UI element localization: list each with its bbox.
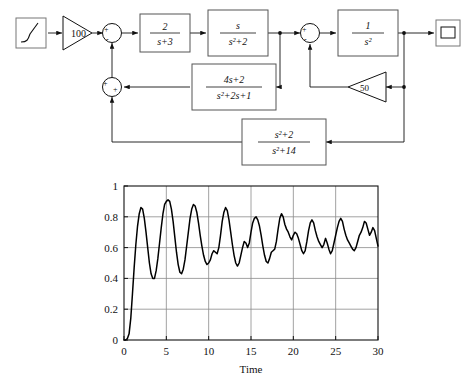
tf-1-denominator: s+3 <box>157 36 173 47</box>
sum-1-bottom-sign: - <box>106 35 109 44</box>
x-tick-label: 0 <box>121 345 127 357</box>
tf-2-denominator: s²+2 <box>229 36 248 47</box>
tf-2-numerator: s <box>236 20 240 31</box>
x-tick-label: 30 <box>373 345 385 357</box>
sum-junction-3[interactable]: + + <box>103 78 122 97</box>
gain-100-label: 100 <box>71 28 86 39</box>
scope-block[interactable] <box>436 20 460 46</box>
x-tick-label: 15 <box>246 345 258 357</box>
transfer-function-2-block[interactable]: s s²+2 <box>208 10 268 56</box>
y-tick-label: 0.8 <box>104 211 118 223</box>
sum-3-left-sign: + <box>103 79 108 88</box>
sum-junction-2[interactable]: + - <box>301 24 320 45</box>
response-plot-svg: 051015202530 00.20.40.60.81 Time <box>0 168 464 378</box>
sum-2-left-sign: + <box>302 25 307 34</box>
y-tick-label: 1 <box>113 180 119 192</box>
gain-100-block[interactable]: 100 <box>63 16 92 50</box>
y-tick-label: 0.4 <box>104 272 118 284</box>
block-diagram-panel: 100 + - 2 s+3 s s²+2 + - 1 s² + <box>0 0 464 170</box>
gain-50-block[interactable]: 50 <box>348 72 386 102</box>
transfer-function-3-block[interactable]: 1 s² <box>338 10 398 56</box>
x-tick-label: 10 <box>203 345 215 357</box>
transfer-function-4-block[interactable]: 4s+2 s²+2s+1 <box>192 64 276 110</box>
tf-3-denominator: s² <box>365 36 373 47</box>
y-tick-label: 0.6 <box>104 242 118 254</box>
x-tick-label: 20 <box>288 345 300 357</box>
y-tick-label: 0 <box>113 334 119 346</box>
sum-1-left-sign: + <box>104 25 109 34</box>
tf-5-denominator: s²+14 <box>272 145 296 156</box>
step-input-block[interactable] <box>16 18 46 48</box>
x-tick-label: 5 <box>164 345 170 357</box>
x-axis-ticks: 051015202530 <box>121 336 384 357</box>
plot-gridlines <box>124 186 378 340</box>
scope-icon <box>441 27 455 38</box>
tf-3-numerator: 1 <box>366 20 371 31</box>
response-plot-panel: 051015202530 00.20.40.60.81 Time <box>0 168 464 378</box>
junction-dot-tf2 <box>278 31 282 35</box>
x-axis-label: Time <box>240 363 263 375</box>
sum-2-bottom-sign: - <box>304 35 307 44</box>
gain-50-label: 50 <box>360 83 370 93</box>
tf-4-denominator: s²+2s+1 <box>217 90 251 101</box>
x-tick-label: 25 <box>330 345 342 357</box>
transfer-function-1-block[interactable]: 2 s+3 <box>140 14 190 52</box>
tf-5-numerator: s²+2 <box>275 129 294 140</box>
tf-1-numerator: 2 <box>163 21 168 32</box>
tf-4-numerator: 4s+2 <box>224 74 245 85</box>
y-tick-label: 0.2 <box>104 303 118 315</box>
sum-3-bottom-sign: + <box>113 85 118 94</box>
transfer-function-5-block[interactable]: s²+2 s²+14 <box>242 119 326 165</box>
sum-junction-1[interactable]: + - <box>103 24 122 45</box>
block-diagram-svg: 100 + - 2 s+3 s s²+2 + - 1 s² + <box>0 0 464 170</box>
